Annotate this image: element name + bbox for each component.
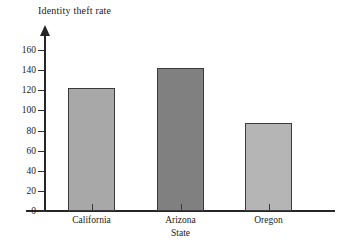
y-axis-tick bbox=[38, 50, 45, 51]
y-axis-tick-label: 100 bbox=[4, 105, 36, 115]
y-axis-tick-label: 140 bbox=[4, 65, 36, 75]
identity-theft-rate-bar-chart: Identity theft rate 02040608010012014016… bbox=[0, 0, 345, 249]
y-axis-tick-label: 40 bbox=[4, 166, 36, 176]
y-axis-tick-label: 160 bbox=[4, 45, 36, 55]
x-axis-tick bbox=[92, 204, 93, 211]
y-axis-tick bbox=[38, 191, 45, 192]
y-axis-tick bbox=[38, 70, 45, 71]
y-axis-tick bbox=[38, 131, 45, 132]
y-axis-tick bbox=[38, 110, 45, 111]
y-axis-tick-label: 20 bbox=[4, 186, 36, 196]
bar bbox=[245, 123, 292, 211]
y-axis-tick-label: 60 bbox=[4, 146, 36, 156]
y-axis-line bbox=[44, 34, 46, 212]
x-axis-category-label: Arizona bbox=[165, 215, 196, 225]
y-axis-tick bbox=[38, 151, 45, 152]
x-axis-category-label: Oregon bbox=[254, 215, 283, 225]
y-axis-tick-label: 80 bbox=[4, 126, 36, 136]
bar bbox=[157, 68, 204, 211]
x-axis-title: State bbox=[171, 228, 190, 238]
y-axis-tick bbox=[38, 171, 45, 172]
x-axis-tick bbox=[181, 204, 182, 211]
x-axis-tick bbox=[269, 204, 270, 211]
y-axis-tick bbox=[38, 211, 45, 212]
y-axis-tick bbox=[38, 90, 45, 91]
x-axis-category-label: California bbox=[72, 215, 111, 225]
bar bbox=[68, 88, 115, 211]
chart-title: Identity theft rate bbox=[38, 5, 111, 16]
y-axis-tick-label: 0 bbox=[4, 206, 36, 216]
y-axis-tick-label: 120 bbox=[4, 85, 36, 95]
